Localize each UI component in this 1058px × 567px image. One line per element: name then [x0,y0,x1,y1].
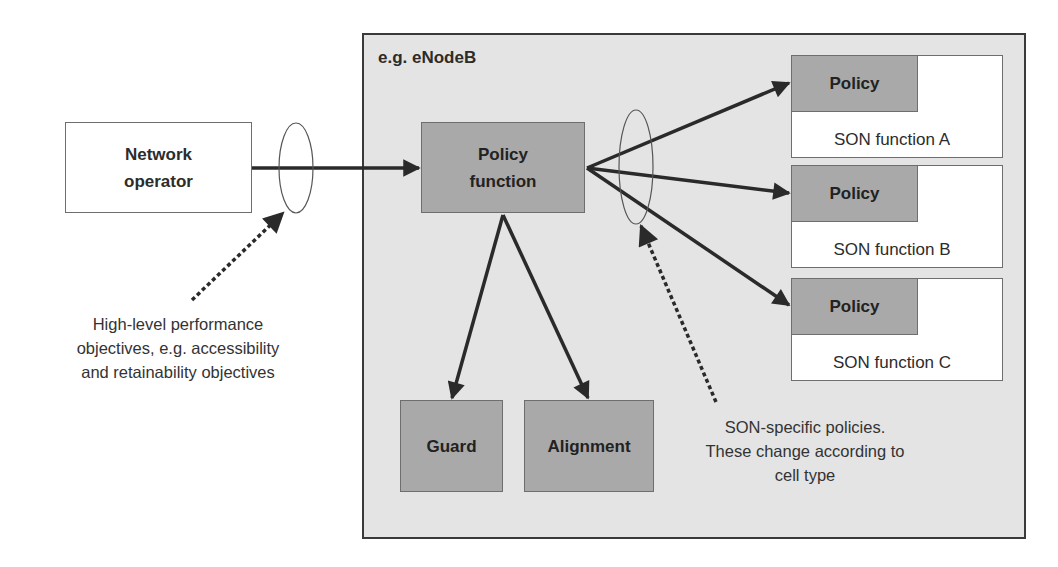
son-policies-ellipse [619,110,653,224]
son-policies-dashed-arrow [641,226,716,402]
connector-layer [0,0,1058,567]
policy-to-guard-alignment-arrows [452,215,588,398]
policy-to-son-arrows [587,83,789,305]
objectives-dashed-arrow [192,213,283,300]
